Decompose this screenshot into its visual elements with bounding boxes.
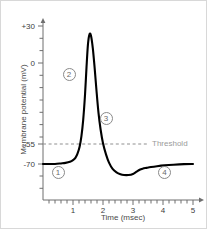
annotation-marker-1: 1 [52, 166, 65, 179]
y-tick-label-0: 0 [7, 59, 35, 68]
x-axis-arrow [199, 198, 204, 203]
y-axis-arrow [41, 18, 46, 23]
threshold-label: Threshold [152, 139, 188, 148]
annotation-marker-2: 2 [63, 68, 76, 81]
x-tick-label-5: 5 [186, 206, 200, 215]
annotation-marker-3: 3 [100, 112, 113, 125]
action-potential-curve [43, 34, 193, 176]
x-axis-ticks [49, 200, 193, 205]
x-tick-label-3: 3 [126, 206, 140, 215]
x-tick-label-2: 2 [96, 206, 110, 215]
x-tick-label-1: 1 [66, 206, 80, 215]
x-tick-label-4: 4 [156, 206, 170, 215]
y-tick-label-minus70: -70 [7, 160, 35, 169]
action-potential-figure: Membrane potential (mV) Time (msec) +30 … [0, 0, 207, 229]
y-tick-label-30: +30 [7, 22, 35, 31]
y-tick-label-minus55: -55 [7, 140, 35, 149]
